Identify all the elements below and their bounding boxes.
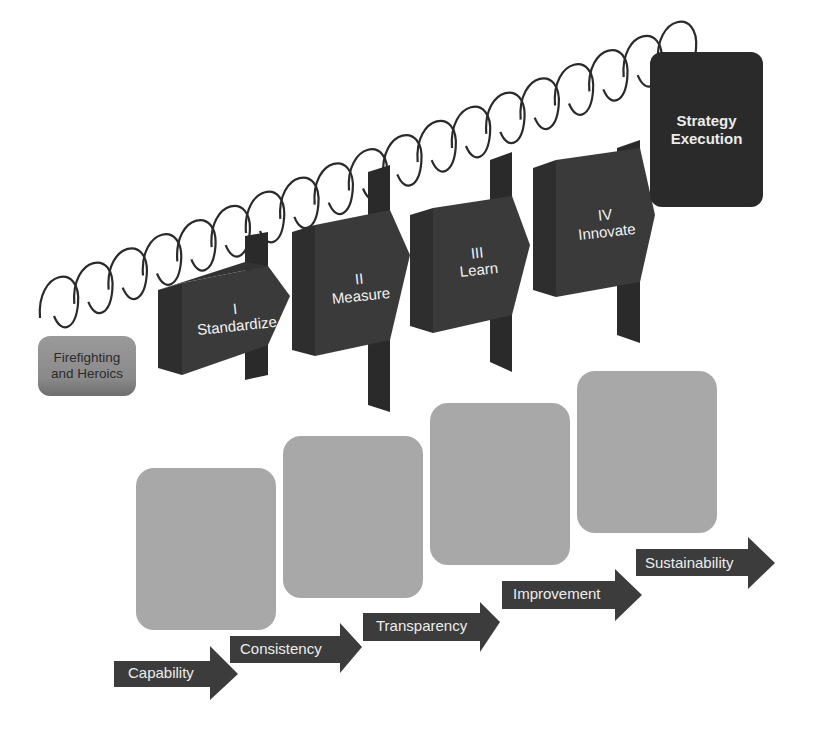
outcome-label-capability: Capability [128,664,194,681]
outcome-label-consistency: Consistency [240,640,322,657]
outcome-label-transparency: Transparency [376,617,467,634]
outcome-label-improvement: Improvement [513,585,601,602]
outcome-label-sustainability: Sustainability [645,554,733,571]
